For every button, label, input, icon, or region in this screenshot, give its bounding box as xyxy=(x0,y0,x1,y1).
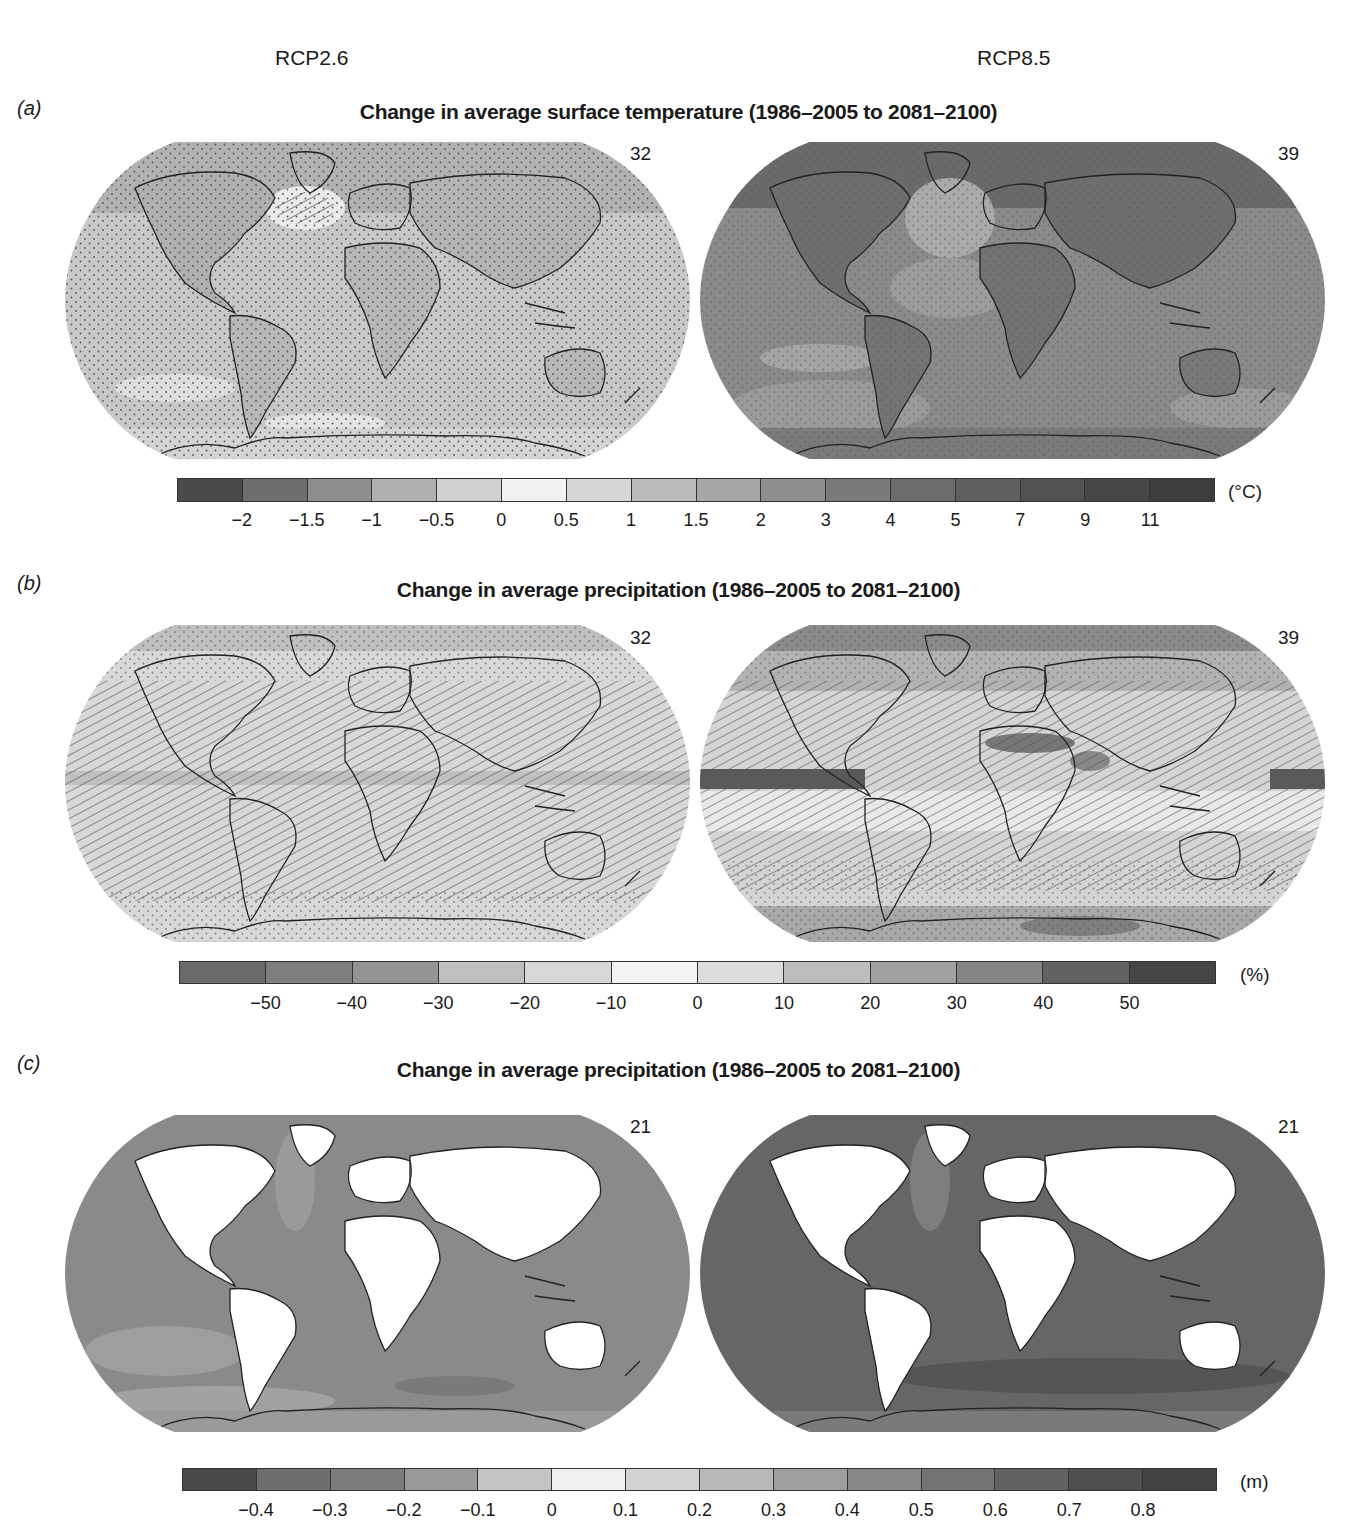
colorbar-segment xyxy=(697,479,762,501)
colorbar-segment xyxy=(552,1469,626,1490)
colorbar-tick-label: −0.5 xyxy=(419,510,455,531)
colorbar-segment xyxy=(437,479,502,501)
colorbar-tick-label: 20 xyxy=(860,993,880,1014)
colorbar-tick-label: −10 xyxy=(596,993,627,1014)
scenario-label-rcp85: RCP8.5 xyxy=(977,46,1051,70)
panel-a-colorbar-ticks: −2−1.5−1−0.500.511.523457911 xyxy=(177,510,1215,534)
colorbar-segment xyxy=(567,479,632,501)
colorbar-tick-label: 11 xyxy=(1141,510,1160,531)
colorbar-segment xyxy=(1143,1469,1216,1490)
colorbar-segment xyxy=(848,1469,922,1490)
colorbar-segment xyxy=(698,962,784,983)
panel-c-colorbar-ticks: −0.4−0.3−0.2−0.100.10.20.30.40.50.60.70.… xyxy=(182,1500,1217,1524)
colorbar-segment xyxy=(1085,479,1150,501)
colorbar-tick-label: −0.3 xyxy=(312,1500,348,1521)
panel-b-title: Change in average precipitation (1986–20… xyxy=(0,578,1357,602)
colorbar-segment xyxy=(353,962,439,983)
panel-c-map-rcp85 xyxy=(700,1111,1325,1436)
panel-a-map-rcp85 xyxy=(700,138,1325,463)
panel-c-map-rcp26 xyxy=(65,1111,690,1436)
colorbar-segment xyxy=(632,479,697,501)
colorbar-tick-label: 10 xyxy=(774,993,794,1014)
colorbar-tick-label: 9 xyxy=(1080,510,1090,531)
panel-b-map-rcp85 xyxy=(700,621,1325,946)
colorbar-tick-label: 0.7 xyxy=(1057,1500,1082,1521)
panel-a-map-rcp26 xyxy=(65,138,690,463)
colorbar-tick-label: −1.5 xyxy=(289,510,325,531)
panel-c-unit: (m) xyxy=(1240,1471,1268,1493)
panel-a-colorbar xyxy=(177,478,1215,502)
colorbar-tick-label: 0.3 xyxy=(761,1500,786,1521)
colorbar-tick-label: −20 xyxy=(509,993,540,1014)
colorbar-segment xyxy=(372,479,437,501)
panel-a-model-count-rcp85: 39 xyxy=(1278,143,1299,165)
colorbar-segment xyxy=(626,1469,700,1490)
colorbar-tick-label: 0.1 xyxy=(613,1500,638,1521)
colorbar-segment xyxy=(257,1469,331,1490)
colorbar-tick-label: 0 xyxy=(692,993,702,1014)
colorbar-segment xyxy=(502,479,567,501)
panel-b-model-count-rcp26: 32 xyxy=(630,627,651,649)
panel-b-unit: (%) xyxy=(1240,964,1270,986)
panel-c-model-count-rcp26: 21 xyxy=(630,1116,651,1138)
colorbar-tick-label: 30 xyxy=(947,993,967,1014)
colorbar-segment xyxy=(826,479,891,501)
colorbar-segment xyxy=(871,962,957,983)
colorbar-tick-label: 7 xyxy=(1015,510,1025,531)
panel-b-map-rcp26 xyxy=(65,621,690,946)
colorbar-segment xyxy=(1021,479,1086,501)
colorbar-tick-label: 0.8 xyxy=(1131,1500,1156,1521)
panel-b-colorbar xyxy=(179,961,1216,984)
colorbar-tick-label: 3 xyxy=(821,510,831,531)
colorbar-segment xyxy=(183,1469,257,1490)
colorbar-tick-label: −50 xyxy=(250,993,281,1014)
colorbar-tick-label: 0 xyxy=(547,1500,557,1521)
colorbar-tick-label: 0.5 xyxy=(909,1500,934,1521)
colorbar-tick-label: 0.6 xyxy=(983,1500,1008,1521)
colorbar-tick-label: 5 xyxy=(950,510,960,531)
panel-a-title: Change in average surface temperature (1… xyxy=(0,100,1357,124)
panel-c-model-count-rcp85: 21 xyxy=(1278,1116,1299,1138)
colorbar-segment xyxy=(922,1469,996,1490)
colorbar-segment xyxy=(331,1469,405,1490)
colorbar-segment xyxy=(774,1469,848,1490)
panel-a-model-count-rcp26: 32 xyxy=(630,143,651,165)
colorbar-segment xyxy=(891,479,956,501)
panel-b-colorbar-ticks: −50−40−30−20−1001020304050 xyxy=(179,993,1216,1017)
colorbar-segment xyxy=(1150,479,1214,501)
colorbar-tick-label: −0.2 xyxy=(386,1500,422,1521)
scenario-label-rcp26: RCP2.6 xyxy=(275,46,349,70)
colorbar-segment xyxy=(439,962,525,983)
colorbar-segment xyxy=(178,479,243,501)
colorbar-tick-label: 50 xyxy=(1120,993,1140,1014)
panel-a-unit: (°C) xyxy=(1228,481,1262,503)
colorbar-segment xyxy=(266,962,352,983)
colorbar-tick-label: 1.5 xyxy=(683,510,708,531)
colorbar-segment xyxy=(995,1469,1069,1490)
colorbar-segment xyxy=(956,479,1021,501)
colorbar-tick-label: 0.5 xyxy=(554,510,579,531)
colorbar-tick-label: 0.4 xyxy=(835,1500,860,1521)
colorbar-tick-label: 40 xyxy=(1033,993,1053,1014)
colorbar-tick-label: 2 xyxy=(756,510,766,531)
panel-c-colorbar xyxy=(182,1468,1217,1491)
colorbar-segment xyxy=(957,962,1043,983)
colorbar-segment xyxy=(700,1469,774,1490)
colorbar-tick-label: −0.4 xyxy=(238,1500,274,1521)
colorbar-tick-label: −0.1 xyxy=(460,1500,496,1521)
colorbar-tick-label: 4 xyxy=(886,510,896,531)
colorbar-tick-label: 0.2 xyxy=(687,1500,712,1521)
colorbar-tick-label: −1 xyxy=(361,510,382,531)
colorbar-tick-label: 0 xyxy=(496,510,506,531)
colorbar-segment xyxy=(405,1469,479,1490)
colorbar-segment xyxy=(180,962,266,983)
colorbar-tick-label: −2 xyxy=(232,510,253,531)
colorbar-tick-label: 1 xyxy=(626,510,636,531)
colorbar-segment xyxy=(525,962,611,983)
colorbar-segment xyxy=(784,962,870,983)
colorbar-segment xyxy=(761,479,826,501)
panel-b-model-count-rcp85: 39 xyxy=(1278,627,1299,649)
panel-c-title: Change in average precipitation (1986–20… xyxy=(0,1058,1357,1082)
colorbar-segment xyxy=(1130,962,1215,983)
colorbar-segment xyxy=(612,962,698,983)
